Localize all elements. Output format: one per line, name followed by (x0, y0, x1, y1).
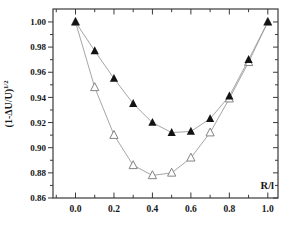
scientific-plot-figure: 0.00.20.40.60.81.00.860.880.900.920.940.… (0, 0, 293, 228)
line-chart-canvas: 0.00.20.40.60.81.00.860.880.900.920.940.… (0, 0, 293, 228)
series-line (76, 22, 268, 133)
x-tick-label: 0.2 (108, 204, 120, 214)
x-axis-label: R/l (261, 180, 275, 191)
y-tick-label: 1.00 (30, 17, 46, 27)
series-line (76, 22, 268, 175)
data-point-marker-filled (187, 127, 195, 135)
plot-frame (53, 9, 278, 198)
data-point-marker-filled (148, 118, 156, 126)
y-tick-label: 0.92 (30, 118, 46, 128)
series-open-triangles (71, 17, 272, 178)
x-tick-label: 0.8 (223, 204, 235, 214)
data-point-marker-open (168, 168, 176, 176)
data-point-marker-filled (264, 17, 272, 25)
x-tick-label: 0.4 (146, 204, 158, 214)
y-tick-label: 0.90 (30, 143, 46, 153)
x-tick-label: 1.0 (262, 204, 274, 214)
data-point-marker-open (110, 131, 118, 139)
y-tick-label: 0.96 (30, 67, 46, 77)
y-axis-label: (1-ΔU/U)1/2 (2, 81, 15, 128)
data-point-marker-open (129, 161, 137, 169)
y-tick-label: 0.86 (30, 193, 46, 203)
data-point-marker-open (206, 128, 214, 136)
x-tick-label: 0.6 (185, 204, 197, 214)
data-point-marker-open (91, 83, 99, 91)
data-point-marker-filled (91, 46, 99, 54)
data-point-marker-filled (71, 17, 79, 25)
x-tick-label: 0.0 (70, 204, 82, 214)
y-tick-label: 0.94 (30, 93, 46, 103)
data-point-marker-filled (168, 128, 176, 136)
y-tick-label: 0.88 (30, 168, 46, 178)
y-tick-label: 0.98 (30, 42, 46, 52)
series-filled-triangles (71, 17, 272, 136)
